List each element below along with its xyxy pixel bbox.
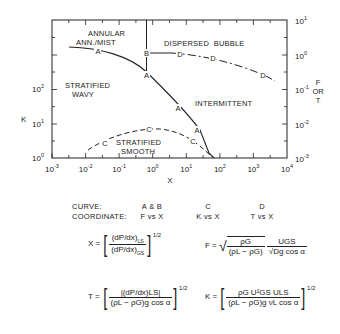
equation-k: K = [ρG U²GS ULS(ρL − ρG)g νL cos α]1/2 (205, 285, 315, 309)
svg-text:104: 104 (281, 163, 293, 174)
svg-text:K vs X: K vs X (196, 212, 219, 221)
svg-text:10-3: 10-3 (295, 153, 309, 164)
svg-text:102: 102 (32, 83, 44, 94)
svg-text:A: A (175, 104, 180, 113)
region-stratified-wavy: STRATIFIED (65, 81, 111, 90)
left-tick-labels: 102 101 100 (32, 83, 44, 163)
svg-text:10-2: 10-2 (295, 119, 309, 130)
region-stratified-smooth-2: SMOOTH (121, 147, 155, 156)
svg-text:A & B: A & B (142, 202, 162, 211)
svg-text:C: C (102, 139, 108, 148)
svg-text:D: D (177, 50, 183, 59)
svg-text:100: 100 (147, 163, 159, 174)
svg-text:100: 100 (295, 50, 307, 61)
right-axis-label: F OR T (312, 78, 324, 105)
svg-text:101: 101 (295, 15, 307, 26)
svg-text:T: T (316, 96, 321, 105)
svg-text:C: C (190, 137, 196, 146)
svg-text:A: A (194, 126, 199, 135)
x-tick-labels: 10-3 10-2 10-1 100 101 102 103 104 (45, 163, 293, 174)
svg-text:101: 101 (180, 163, 192, 174)
region-labels: ANNULAR ANN./MIST DISPERSED BUBBLE STRAT… (65, 29, 253, 156)
equation-x: X = [(dP/dx)LS(dP/dx)GS]1/2 (88, 232, 161, 256)
svg-text:C: C (146, 125, 152, 134)
svg-text:100: 100 (32, 152, 44, 163)
svg-text:F: F (316, 78, 321, 87)
svg-text:OR: OR (312, 87, 324, 96)
svg-text:B: B (144, 49, 149, 58)
svg-text:A: A (95, 47, 100, 56)
left-axis-label: K (21, 115, 27, 124)
region-stratified-smooth: STRATIFIED (116, 138, 162, 147)
svg-text:D: D (210, 54, 216, 63)
x-axis-label: X (167, 176, 173, 185)
curve-legend: CURVE: COORDINATE: A & B F vs X C K vs X… (72, 202, 273, 221)
equation-f: F = √ρG(ρL − ρG) UGS√Dg cos α (205, 236, 307, 256)
svg-text:CURVE:: CURVE: (72, 202, 102, 211)
svg-text:D: D (259, 202, 265, 211)
svg-text:10-3: 10-3 (45, 163, 59, 174)
flow-regime-chart: A B A A A D D D C C C ANNULAR ANN./MIST … (0, 0, 340, 334)
svg-text:A: A (144, 71, 149, 80)
region-annular-mist: ANN./MIST (76, 38, 116, 47)
svg-text:COORDINATE:: COORDINATE: (72, 212, 127, 221)
right-tick-labels: 101 100 10-1 10-2 10-3 (295, 15, 309, 164)
svg-text:T vs X: T vs X (251, 212, 274, 221)
region-dispersed-bubble: DISPERSED BUBBLE (164, 39, 245, 48)
svg-text:10-1: 10-1 (112, 163, 126, 174)
region-stratified-wavy-2: WAVY (72, 90, 94, 99)
svg-text:10-1: 10-1 (295, 84, 309, 95)
curve-markers: A B A A A D D D C C C (94, 47, 266, 148)
svg-text:F vs X: F vs X (140, 212, 163, 221)
region-annular: ANNULAR (88, 29, 126, 38)
svg-text:101: 101 (32, 118, 44, 129)
svg-text:C: C (205, 202, 211, 211)
equation-t: T = [|(dP/dx)LS|(ρL − ρG)g cos α]1/2 (88, 285, 187, 309)
svg-text:D: D (260, 71, 266, 80)
svg-text:103: 103 (247, 163, 259, 174)
svg-text:102: 102 (214, 163, 226, 174)
svg-text:10-2: 10-2 (79, 163, 93, 174)
region-intermittent: INTERMITTENT (195, 99, 253, 108)
